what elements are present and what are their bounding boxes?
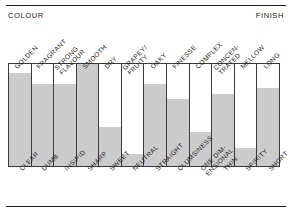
chart-column <box>9 64 32 166</box>
colour-caption: COLOUR <box>8 11 44 20</box>
chart-column <box>235 64 258 166</box>
chart-bar <box>9 73 31 166</box>
tasting-profile-sheet: COLOUR FINISH GOLDENFRAGRANTSTRONGFLAVOU… <box>0 0 292 214</box>
top-divider-rule <box>6 5 286 6</box>
finish-caption: FINISH <box>256 11 284 20</box>
profile-bar-chart <box>8 63 280 167</box>
bottom-divider-rule <box>6 206 286 207</box>
chart-column <box>54 64 77 166</box>
